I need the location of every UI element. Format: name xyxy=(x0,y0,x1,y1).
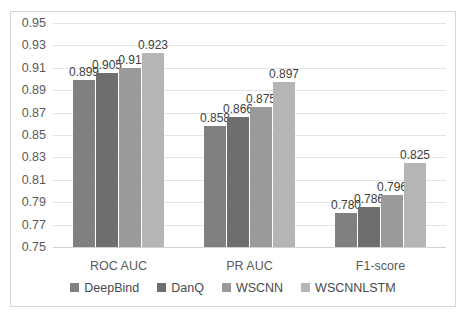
bar-value-label: 0.923 xyxy=(138,39,168,51)
y-axis-tick-label: 0.83 xyxy=(22,151,46,164)
legend-swatch-icon xyxy=(70,283,79,292)
x-axis-category-label: PR AUC xyxy=(226,260,273,273)
bar-group-f1-score: 0.7800.7860.7960.825F1-score xyxy=(315,23,446,247)
bar-value-label: 0.796 xyxy=(377,181,407,193)
legend-item-danq[interactable]: DanQ xyxy=(157,282,204,295)
gridline xyxy=(53,247,446,248)
y-axis-tick-label: 0.91 xyxy=(22,62,46,75)
plot-area: 0.950.930.910.890.870.850.830.810.790.77… xyxy=(53,23,446,247)
bar-deepbind-pr-auc[interactable]: 0.858 xyxy=(204,126,226,247)
bar-danq-f1-score[interactable]: 0.786 xyxy=(358,207,380,247)
bar-wscnn-pr-auc[interactable]: 0.875 xyxy=(250,107,272,247)
chart-frame: 0.950.930.910.890.870.850.830.810.790.77… xyxy=(10,11,456,307)
bar-value-label: 0.875 xyxy=(246,93,276,105)
legend-swatch-icon xyxy=(301,283,310,292)
bar-wscnn-roc-auc[interactable]: 0.91 xyxy=(119,68,141,247)
bar-group-roc-auc: 0.8990.9050.910.923ROC AUC xyxy=(53,23,184,247)
chart-legend: DeepBindDanQWSCNNWSCNNLSTM xyxy=(11,282,455,295)
legend-swatch-icon xyxy=(222,283,231,292)
bar-danq-roc-auc[interactable]: 0.905 xyxy=(96,73,118,247)
y-axis-tick-label: 0.93 xyxy=(22,39,46,52)
legend-item-wscnnlstm[interactable]: WSCNNLSTM xyxy=(301,282,396,295)
y-axis-tick-label: 0.95 xyxy=(22,17,46,30)
legend-label: DeepBind xyxy=(84,282,139,295)
bar-deepbind-roc-auc[interactable]: 0.899 xyxy=(73,80,95,247)
y-axis-tick-label: 0.75 xyxy=(22,241,46,254)
bar-deepbind-f1-score[interactable]: 0.780 xyxy=(335,213,357,247)
bar-group-pr-auc: 0.8580.8660.8750.897PR AUC xyxy=(184,23,315,247)
x-axis-category-label: F1-score xyxy=(356,260,405,273)
x-axis-category-label: ROC AUC xyxy=(90,260,147,273)
y-axis-tick-label: 0.89 xyxy=(22,84,46,97)
y-axis-tick-label: 0.87 xyxy=(22,106,46,119)
bar-wscnnlstm-f1-score[interactable]: 0.825 xyxy=(404,163,426,247)
legend-item-deepbind[interactable]: DeepBind xyxy=(70,282,139,295)
bar-value-label: 0.786 xyxy=(354,193,384,205)
legend-label: WSCNNLSTM xyxy=(315,282,396,295)
y-axis-tick-label: 0.81 xyxy=(22,174,46,187)
y-axis-tick-label: 0.77 xyxy=(22,218,46,231)
legend-label: WSCNN xyxy=(236,282,283,295)
bar-value-label: 0.825 xyxy=(400,149,430,161)
bar-value-label: 0.897 xyxy=(269,68,299,80)
bar-wscnnlstm-roc-auc[interactable]: 0.923 xyxy=(142,53,164,247)
legend-item-wscnn[interactable]: WSCNN xyxy=(222,282,283,295)
bar-danq-pr-auc[interactable]: 0.866 xyxy=(227,117,249,247)
y-axis-tick-label: 0.85 xyxy=(22,129,46,142)
bar-value-label: 0.91 xyxy=(118,54,141,66)
y-axis-tick-label: 0.79 xyxy=(22,196,46,209)
legend-swatch-icon xyxy=(157,283,166,292)
legend-label: DanQ xyxy=(171,282,204,295)
bar-wscnnlstm-pr-auc[interactable]: 0.897 xyxy=(273,82,295,247)
bar-wscnn-f1-score[interactable]: 0.796 xyxy=(381,195,403,247)
